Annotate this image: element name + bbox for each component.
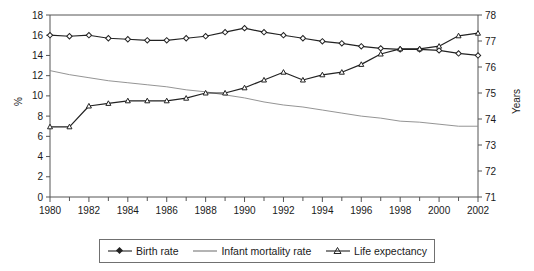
svg-text:1980: 1980 <box>39 205 62 216</box>
x-axis: 1980198219841986198819901992199419961998… <box>39 197 490 216</box>
plot-frame <box>50 15 478 197</box>
svg-text:8: 8 <box>37 111 43 122</box>
svg-text:2: 2 <box>37 171 43 182</box>
series-life-expectancy <box>48 31 481 129</box>
svg-text:72: 72 <box>485 166 497 177</box>
svg-text:1982: 1982 <box>78 205 101 216</box>
svg-text:1988: 1988 <box>195 205 218 216</box>
svg-text:2000: 2000 <box>428 205 451 216</box>
y-axis-right-title: Years <box>511 78 522 126</box>
svg-text:73: 73 <box>485 140 497 151</box>
svg-text:74: 74 <box>485 114 497 125</box>
chart-figure: 1980198219841986198819901992199419961998… <box>0 0 534 271</box>
legend-label-infant-mortality-rate: Infant mortality rate <box>221 246 311 257</box>
legend-item-life-expectancy[interactable]: Life expectancy <box>325 246 427 257</box>
svg-text:1990: 1990 <box>233 205 256 216</box>
svg-text:12: 12 <box>32 70 44 81</box>
chart-legend: Birth rate Infant mortality rate Life ex… <box>99 239 435 263</box>
legend-item-infant-mortality-rate[interactable]: Infant mortality rate <box>192 246 311 257</box>
svg-text:10: 10 <box>32 90 44 101</box>
svg-text:2002: 2002 <box>467 205 490 216</box>
svg-text:16: 16 <box>32 30 44 41</box>
svg-text:1992: 1992 <box>272 205 295 216</box>
legend-item-birth-rate[interactable]: Birth rate <box>107 246 179 257</box>
svg-text:76: 76 <box>485 62 497 73</box>
svg-text:1998: 1998 <box>389 205 412 216</box>
svg-text:14: 14 <box>32 50 44 61</box>
legend-label-life-expectancy: Life expectancy <box>354 246 427 257</box>
svg-text:0: 0 <box>37 192 43 203</box>
svg-text:77: 77 <box>485 36 497 47</box>
legend-label-birth-rate: Birth rate <box>136 246 179 257</box>
series-layer <box>47 25 480 128</box>
legend-swatch-line-icon <box>192 246 218 256</box>
svg-text:71: 71 <box>485 192 497 203</box>
svg-text:1996: 1996 <box>350 205 373 216</box>
svg-text:1986: 1986 <box>156 205 179 216</box>
svg-text:4: 4 <box>37 151 43 162</box>
y-axis-left: 024681012141618 <box>32 10 50 203</box>
legend-swatch-diamond-icon <box>107 246 133 256</box>
svg-text:1984: 1984 <box>117 205 140 216</box>
legend-swatch-triangle-icon <box>325 246 351 256</box>
svg-text:1994: 1994 <box>311 205 334 216</box>
series-birth-rate <box>47 25 480 58</box>
y-axis-right: 7172737475767778 <box>478 10 497 203</box>
svg-text:6: 6 <box>37 131 43 142</box>
svg-text:78: 78 <box>485 10 497 21</box>
svg-text:18: 18 <box>32 10 44 21</box>
y-axis-left-title: % <box>13 78 24 126</box>
svg-text:75: 75 <box>485 88 497 99</box>
chart-plot: 1980198219841986198819901992199419961998… <box>0 0 534 271</box>
